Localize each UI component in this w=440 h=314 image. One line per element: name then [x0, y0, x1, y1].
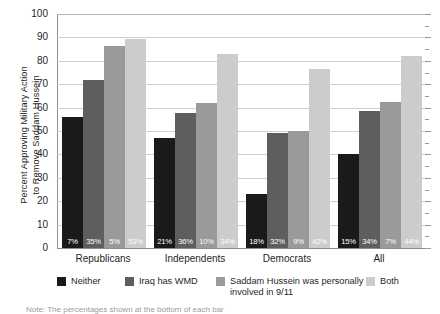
plot-area: 7%35%5%53%21%36%10%34%18%32%9%42%15%34%7… — [57, 14, 425, 248]
legend-item[interactable]: Iraq has WMD — [125, 276, 198, 287]
bar: 7% — [62, 117, 83, 248]
bar: 53% — [125, 39, 146, 248]
bar: 34% — [217, 54, 238, 248]
x-axis-line — [57, 248, 425, 249]
bar: 18% — [246, 194, 267, 248]
y-axis-tick-label: 70 — [18, 78, 48, 89]
bar: 7% — [380, 102, 401, 248]
y-axis-tick-label: 100 — [18, 8, 48, 19]
bar-value-label: 42% — [309, 237, 330, 246]
bar-value-label: 34% — [217, 237, 238, 246]
bar: 5% — [104, 46, 125, 248]
bar-value-label: 5% — [104, 237, 125, 246]
y-axis-tick-label: 0 — [18, 242, 48, 253]
x-axis-category-label: Independents — [149, 253, 241, 264]
bar-value-label: 10% — [196, 237, 217, 246]
x-axis-category-label: Democrats — [241, 253, 333, 264]
bar-value-label: 15% — [338, 237, 359, 246]
legend-item[interactable]: Saddam Hussein was personally involved i… — [216, 276, 363, 298]
bar-group: 7%35%5%53% — [58, 14, 150, 248]
bar: 21% — [154, 138, 175, 248]
y-axis-tick-label: 30 — [18, 172, 48, 183]
bar-group: 21%36%10%34% — [150, 14, 242, 248]
x-axis-category-label: All — [333, 253, 425, 264]
y-axis-tick-label: 80 — [18, 55, 48, 66]
legend-item[interactable]: Neither — [57, 276, 101, 287]
bar: 9% — [288, 131, 309, 248]
bar-value-label: 7% — [380, 237, 401, 246]
x-axis-category-label: Republicans — [57, 253, 149, 264]
y-axis-tick-label: 60 — [18, 102, 48, 113]
y-axis-tick-label: 90 — [18, 31, 48, 42]
legend-swatch-icon — [125, 277, 134, 286]
bar-group: 15%34%7%44% — [334, 14, 426, 248]
bar-value-label: 36% — [175, 237, 196, 246]
legend-item[interactable]: Both — [366, 276, 399, 287]
legend-label: Saddam Hussein was personally involved i… — [230, 276, 363, 298]
legend-swatch-icon — [366, 277, 375, 286]
bar-value-label: 44% — [401, 237, 422, 246]
y-axis-tick-label: 50 — [18, 125, 48, 136]
legend-swatch-icon — [57, 277, 66, 286]
bar: 36% — [175, 113, 196, 248]
bar-value-label: 18% — [246, 237, 267, 246]
legend-swatch-icon — [216, 277, 225, 286]
bar-value-label: 34% — [359, 237, 380, 246]
legend-label: Iraq has WMD — [139, 276, 198, 287]
bar-value-label: 21% — [154, 237, 175, 246]
legend-label: Both — [380, 276, 399, 287]
y-axis-tick-label: 10 — [18, 219, 48, 230]
bar: 42% — [309, 69, 330, 248]
chart-legend: NeitherIraq has WMDSaddam Hussein was pe… — [0, 276, 440, 302]
bar-chart: Percent Approving Military Action to Rem… — [0, 0, 440, 314]
bar-value-label: 53% — [125, 237, 146, 246]
bar-groups: 7%35%5%53%21%36%10%34%18%32%9%42%15%34%7… — [58, 14, 425, 248]
bar: 15% — [338, 154, 359, 248]
bar-value-label: 35% — [83, 237, 104, 246]
axis-tick — [425, 248, 431, 249]
bar: 35% — [83, 80, 104, 248]
bar: 10% — [196, 103, 217, 248]
bar-value-label: 32% — [267, 237, 288, 246]
bar-group: 18%32%9%42% — [242, 14, 334, 248]
bar: 32% — [267, 133, 288, 248]
y-axis-tick-label: 20 — [18, 195, 48, 206]
legend-label: Neither — [71, 276, 101, 287]
footnote: Note: The percentages shown at the botto… — [26, 305, 436, 314]
bar-value-label: 7% — [62, 237, 83, 246]
bar: 44% — [401, 56, 422, 248]
y-axis-tick-label: 40 — [18, 148, 48, 159]
bar-value-label: 9% — [288, 237, 309, 246]
bar: 34% — [359, 111, 380, 248]
